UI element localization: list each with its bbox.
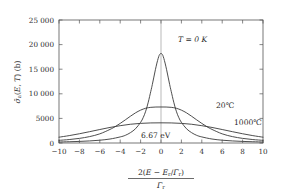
annotation-resonance-energy: 6.67 eV: [141, 131, 171, 140]
x-tick-label: −8: [74, 147, 85, 156]
y-tick-label: 10 000: [29, 89, 55, 98]
x-tick-label: −4: [115, 147, 126, 156]
x-tick-label: 6: [220, 147, 225, 156]
x-tick-label: −2: [135, 147, 146, 156]
annotation-temperature-20c: 20℃: [216, 101, 235, 110]
annotation-temperature-0k: T = 0 K: [178, 35, 209, 44]
x-tick-label: 0: [159, 147, 164, 156]
y-tick-label: 25 000: [29, 16, 55, 25]
x-axis-title-numerator: 2(E − Er/Γr): [138, 168, 184, 177]
annotation-temperature-1000c: 1000℃: [234, 118, 262, 127]
x-tick-label: 8: [240, 147, 245, 156]
y-tick-label: 5000: [36, 114, 55, 123]
y-tick-label: 15 000: [29, 65, 55, 74]
figure-container: 0500010 00015 00020 00025 000 −10−8−6−4−…: [0, 0, 289, 193]
x-tick-label: −10: [51, 147, 67, 156]
y-tick-label: 20 000: [29, 40, 55, 49]
x-tick-label: 4: [200, 147, 205, 156]
x-tick-label: 10: [258, 147, 268, 156]
x-tick-label: 2: [179, 147, 184, 156]
x-tick-label: −6: [94, 147, 105, 156]
resonance-cross-section-chart: 0500010 00015 00020 00025 000 −10−8−6−4−…: [0, 0, 289, 193]
